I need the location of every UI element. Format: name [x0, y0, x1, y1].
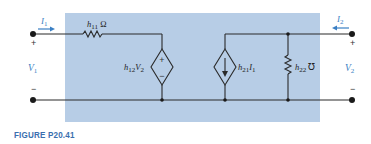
port2-plus: + [350, 38, 355, 48]
terminal-1-top [30, 31, 36, 37]
terminal-1-bottom [30, 97, 36, 103]
port1-minus: − [31, 84, 36, 94]
port1-plus: + [31, 38, 36, 48]
terminal-2-top [349, 31, 355, 37]
arrow-i2-icon [332, 26, 349, 31]
port2-minus: − [350, 84, 355, 94]
h-parameter-circuit: + − I1 + V1 − I2 + V2 − h11 Ω h12V2 h21I… [0, 0, 371, 144]
label-v2: V2 [345, 63, 355, 75]
source-plus: + [159, 55, 164, 65]
terminal-2-bottom [349, 97, 355, 103]
label-i2: I2 [336, 14, 344, 26]
label-i1: I1 [40, 16, 48, 28]
two-port-box [65, 13, 320, 122]
figure-caption: FIGURE P20.41 [14, 129, 75, 140]
label-v1: V1 [28, 63, 38, 75]
source-minus: − [159, 71, 164, 81]
